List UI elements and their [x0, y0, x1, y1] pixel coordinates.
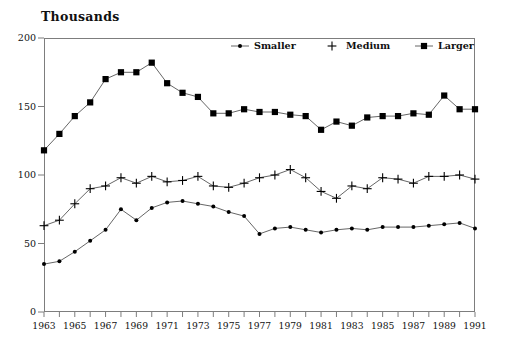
chart-plot-area	[0, 0, 508, 348]
series-smaller	[42, 199, 477, 266]
legend-marker-larger	[415, 43, 433, 49]
data-series-group	[40, 60, 480, 266]
series-medium	[40, 165, 480, 230]
series-larger	[41, 60, 478, 154]
legend-label-smaller: Smaller	[254, 40, 296, 51]
legend-label-larger: Larger	[438, 40, 474, 51]
legend-label-medium: Medium	[346, 40, 390, 51]
chart-container: Thousands 050100150200196319651967196919…	[0, 0, 508, 348]
legend-marker-smaller	[231, 44, 249, 48]
legend-marker-medium	[328, 42, 337, 51]
